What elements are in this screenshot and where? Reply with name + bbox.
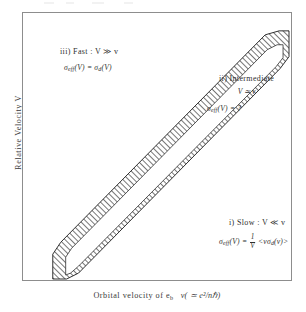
intermediate-sigma-eff: σeff(V) <box>207 104 228 113</box>
x-axis-label-expression: v( ≃ e²/nℏ) <box>181 291 221 300</box>
x-axis-label-subscript: b <box>170 294 174 301</box>
scan-artifact <box>40 1 190 6</box>
slow-average-bracket: <vσd(v)> <box>258 237 288 246</box>
plot-frame: iii) Fast : V ≫ v σeff(V) = σd(V) ii) In… <box>22 12 292 281</box>
annotation-slow-regime: i) Slow : V ≪ v σeff(V) = 1 V <vσd(v)> <box>219 218 288 250</box>
slow-regime-formula: σeff(V) = 1 V <vσd(v)> <box>219 234 288 250</box>
intermediate-regime-condition: V ≃ v <box>219 87 274 96</box>
slow-fraction-denominator: V <box>250 242 255 251</box>
slow-sigma-eff: σeff(V) <box>219 237 240 246</box>
figure-container: Relative Velocity V iii) Fast : V ≫ v σe… <box>0 0 306 312</box>
x-axis-label-text: Orbital velocity of e <box>93 291 170 300</box>
annotation-intermediate-regime: ii) Intermediate V ≃ v σeff(V) = ? <box>219 74 274 113</box>
x-axis-label: Orbital velocity of ebv( ≃ e²/nℏ) <box>22 290 292 301</box>
slow-regime-title: i) Slow : V ≪ v <box>229 218 288 227</box>
fast-equals: = <box>87 63 92 72</box>
slow-equals: = <box>242 237 247 246</box>
fast-regime-title: iii) Fast : V ≫ v <box>60 47 118 56</box>
fast-sigma-eff: σeff(V) <box>64 63 85 72</box>
fast-regime-formula: σeff(V) = σd(V) <box>64 63 118 72</box>
intermediate-unknown: ? <box>237 104 241 113</box>
slow-fraction-numerator: 1 <box>250 234 255 242</box>
annotation-fast-regime: iii) Fast : V ≫ v σeff(V) = σd(V) <box>60 47 118 72</box>
intermediate-regime-title: ii) Intermediate <box>219 74 274 83</box>
intermediate-regime-formula: σeff(V) = ? <box>207 104 274 113</box>
fast-sigma-d: σd(V) <box>94 63 111 72</box>
slow-fraction: 1 V <box>250 234 255 250</box>
intermediate-equals: = <box>230 104 235 113</box>
